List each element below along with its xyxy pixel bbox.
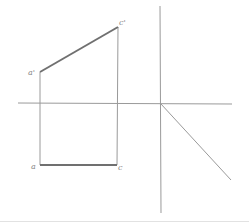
label-a-prime: a' [28,68,35,77]
projector-line-c [117,27,118,165]
bottom-divider [0,221,249,222]
diagram-svg: a' c' a c [0,0,249,224]
label-a: a [31,162,36,171]
label-c-prime: c' [119,18,126,27]
front-view-line-ac-prime [40,27,118,72]
miter-line-45deg [161,104,231,180]
x-axis-line [18,103,232,104]
y-axis-line [160,6,161,213]
label-c: c [118,163,123,172]
projection-diagram: a' c' a c [0,0,249,224]
